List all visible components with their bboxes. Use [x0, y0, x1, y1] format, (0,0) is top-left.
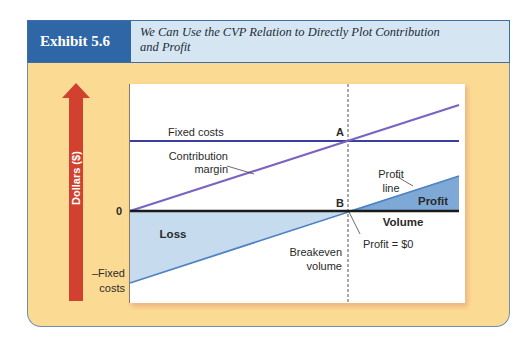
breakeven-volume-label-2: volume — [307, 260, 342, 272]
contribution-label: Contribution — [169, 150, 228, 162]
fixed-costs-label: Fixed costs — [168, 126, 224, 138]
neg-fixed-label: –Fixed — [92, 267, 125, 279]
profit-zero-label: Profit = $0 — [363, 238, 413, 250]
zero-tick-label: 0 — [116, 205, 122, 217]
contribution-label-2: margin — [194, 163, 228, 175]
point-a-label: A — [336, 126, 344, 138]
volume-axis-label: Volume — [383, 216, 424, 228]
point-b-label: B — [336, 197, 344, 209]
neg-fixed-label-2: costs — [99, 282, 125, 294]
loss-region-label: Loss — [160, 228, 187, 240]
profit-line-label: Profit — [378, 168, 404, 180]
profit-line-label-2: line — [382, 182, 399, 194]
breakeven-volume-label: Breakeven — [289, 246, 342, 258]
cvp-chart: Dollars ($) 0 –Fixed costs Fixed costs C… — [0, 0, 532, 346]
y-axis-label: Dollars ($) — [70, 151, 82, 205]
profit-region-label: Profit — [418, 195, 448, 207]
